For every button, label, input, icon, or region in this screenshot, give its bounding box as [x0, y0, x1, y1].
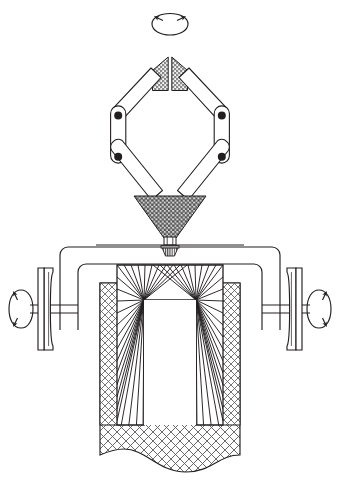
chamber-opening	[144, 300, 196, 425]
technical-diagram	[0, 0, 340, 481]
funnel-neck	[164, 237, 176, 245]
diagram-canvas	[0, 0, 340, 481]
pivot-upper-left	[114, 112, 122, 120]
pivot-lower-left	[114, 153, 122, 161]
pulley-right	[287, 268, 302, 350]
pivot-lower-right	[218, 153, 226, 161]
pivot-upper-right	[218, 112, 226, 120]
pulley-left	[38, 268, 53, 350]
